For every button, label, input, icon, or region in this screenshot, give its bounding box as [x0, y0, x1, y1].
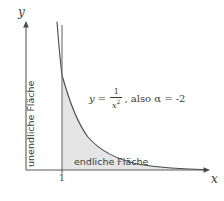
formula-equals: = — [98, 94, 106, 104]
finite-area-label: endliche Fläche — [74, 157, 148, 167]
formula-tail: , also α = -2 — [124, 94, 185, 104]
axis-label-x: x — [211, 173, 218, 185]
infinite-area-label: unendliche Fläche — [26, 78, 36, 170]
formula-numerator: 1 — [112, 88, 121, 97]
formula-denominator-exponent: 2 — [117, 98, 121, 105]
formula-lhs: y — [89, 94, 95, 104]
function-formula-label: y = 1 x2 , also α = -2 — [89, 88, 185, 110]
x-tick-label-one: 1 — [59, 174, 65, 183]
y-axis-arrowhead — [23, 21, 29, 28]
x-axis-arrowhead — [204, 167, 211, 173]
formula-denominator: x2 — [110, 98, 122, 110]
formula-fraction: 1 x2 — [110, 88, 122, 110]
axis-label-y: y — [18, 6, 25, 18]
figure-canvas: y x 1 unendliche Fläche endliche Fläche … — [0, 0, 224, 201]
